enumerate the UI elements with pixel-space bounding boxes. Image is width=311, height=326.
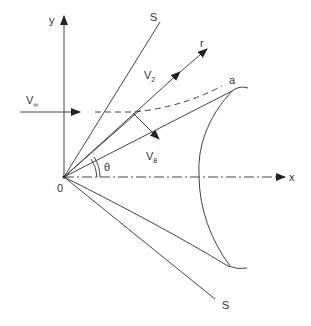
- shock-label-upper: S: [150, 12, 157, 23]
- radial-ray-tip: [180, 49, 207, 72]
- angle-theta-label: θ: [104, 162, 110, 173]
- x-axis-label: x: [289, 172, 295, 183]
- y-axis-label: y: [49, 15, 55, 26]
- v2-sub: 2: [151, 76, 155, 83]
- cone-lip-upper: [232, 87, 248, 91]
- cone-surface-lower: [64, 177, 247, 269]
- cone-surface-upper: [64, 91, 232, 177]
- vtheta-label: Vθ: [146, 151, 157, 164]
- vtheta-sub: θ: [153, 157, 157, 164]
- origin-label: 0: [57, 183, 63, 194]
- radial-label: r: [200, 38, 204, 49]
- cone-flow-diagram: y x 0 S S r a θ V∞ V2 Vθ: [0, 0, 311, 326]
- freestream-sub: ∞: [33, 101, 38, 108]
- origin-point: [63, 176, 66, 179]
- freestream-velocity-label: V∞: [26, 95, 38, 108]
- cone-point-label: a: [229, 75, 235, 86]
- shock-line-lower: [64, 177, 215, 299]
- streamline-dashed: [95, 86, 222, 112]
- shock-label-lower: S: [222, 300, 229, 311]
- v2-label: V2: [144, 70, 155, 83]
- cone-base-arc: [199, 91, 232, 266]
